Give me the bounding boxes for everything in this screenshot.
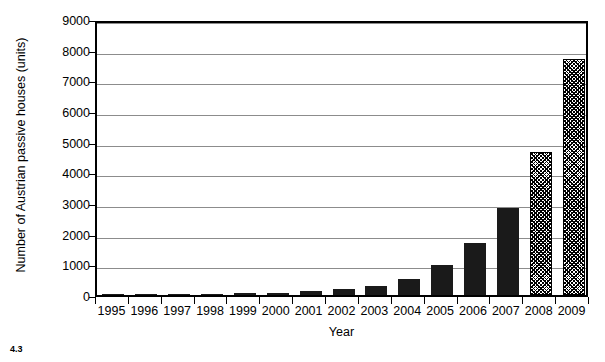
x-axis-tick-mark — [358, 297, 359, 304]
bar-2009 — [563, 59, 585, 295]
bar-1995 — [102, 294, 124, 296]
gridline — [97, 54, 586, 55]
x-axis-tick-mark — [292, 297, 293, 304]
gridline — [97, 176, 586, 177]
x-axis-tick-mark — [555, 297, 556, 304]
y-axis-tick-label: 1000 — [38, 259, 90, 273]
bar-1998 — [201, 294, 223, 296]
y-axis-tick-label: 0 — [38, 290, 90, 304]
y-axis-tick-label: 6000 — [38, 106, 90, 120]
y-axis-tick-label: 3000 — [38, 198, 90, 212]
y-axis-tick-label: 9000 — [38, 14, 90, 28]
y-axis-tick-mark — [89, 174, 95, 175]
x-axis-tick-label: 2009 — [552, 304, 592, 318]
x-axis-tick-mark — [226, 297, 227, 304]
y-axis-tick-mark — [89, 236, 95, 237]
bar-2003 — [365, 286, 387, 295]
y-axis-tick-labels: 0100020003000400050006000700080009000 — [36, 0, 90, 362]
bar-2004 — [398, 279, 420, 295]
x-axis-tick-mark — [95, 297, 96, 304]
bar-2005 — [431, 265, 453, 295]
bar-1997 — [168, 294, 190, 296]
bar-2001 — [300, 291, 322, 295]
y-axis-title: Number of Austrian passive houses (units… — [10, 5, 32, 305]
y-axis-tick-mark — [89, 21, 95, 22]
y-axis-tick-label: 2000 — [38, 229, 90, 243]
y-axis-tick-label: 4000 — [38, 167, 90, 181]
y-axis-tick-mark — [89, 205, 95, 206]
bar-2007 — [497, 208, 519, 295]
x-axis-tick-mark — [588, 297, 589, 304]
x-axis-tick-mark — [325, 297, 326, 304]
gridline — [97, 84, 586, 85]
bar-2006 — [464, 243, 486, 295]
x-axis-tick-mark — [457, 297, 458, 304]
bar-1996 — [135, 294, 157, 296]
x-axis-tick-mark — [489, 297, 490, 304]
y-axis-tick-mark — [89, 82, 95, 83]
y-axis-tick-mark — [89, 266, 95, 267]
y-axis-tick-label: 8000 — [38, 45, 90, 59]
figure-caption: 4.3 — [10, 344, 23, 354]
x-axis-tick-mark — [128, 297, 129, 304]
gridline — [97, 115, 586, 116]
bar-chart-figure: Number of Austrian passive houses (units… — [0, 0, 605, 362]
x-axis-title: Year — [95, 325, 588, 339]
plot-inner — [97, 23, 586, 295]
x-axis-tick-labels: 1995199619971998199920002001200220032004… — [95, 304, 588, 324]
x-axis-tick-mark — [259, 297, 260, 304]
y-axis-tick-label: 7000 — [38, 75, 90, 89]
bar-2002 — [333, 289, 355, 295]
gridline — [97, 146, 586, 147]
bar-2008 — [530, 152, 552, 295]
x-axis-tick-mark — [522, 297, 523, 304]
x-axis-tick-mark — [194, 297, 195, 304]
bar-2000 — [267, 293, 289, 295]
bar-1999 — [234, 293, 256, 295]
plot-area — [95, 21, 588, 297]
y-axis-tick-mark — [89, 144, 95, 145]
y-axis-tick-label: 5000 — [38, 137, 90, 151]
x-axis-tick-mark — [161, 297, 162, 304]
gridline — [97, 23, 586, 24]
y-axis-tick-mark — [89, 113, 95, 114]
x-axis-tick-mark — [424, 297, 425, 304]
x-axis-tick-mark — [391, 297, 392, 304]
y-axis-tick-mark — [89, 52, 95, 53]
